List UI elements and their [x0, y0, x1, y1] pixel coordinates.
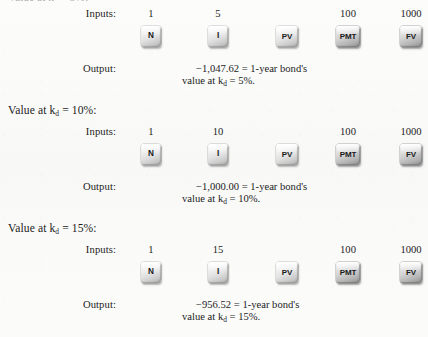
- input-value-i: 5: [215, 8, 220, 19]
- calculator-key-i-label: I: [217, 268, 219, 276]
- output-line-1: −1,047.62 = 1-year bond's: [196, 63, 307, 74]
- input-value-n: 1: [148, 8, 153, 19]
- calculator-key-pv[interactable]: PV: [276, 26, 298, 47]
- calculator-key-fv[interactable]: FV: [400, 26, 422, 47]
- output-line-2: value at kd = 15%.: [182, 311, 299, 324]
- block-heading-kd-15: Value at kd = 15%:: [8, 222, 97, 235]
- output-line-1: −1,000.00 = 1-year bond's: [196, 181, 307, 192]
- output-label: Output:: [38, 299, 116, 310]
- output-line-2-subscript: d: [223, 315, 227, 324]
- input-value-pmt: 100: [340, 8, 356, 19]
- calculator-key-fv-label: FV: [406, 33, 416, 41]
- output-text: −956.52 = 1-year bond's value at kd = 15…: [196, 299, 299, 325]
- input-value-fv: 1000: [400, 126, 421, 137]
- calculator-key-i-label: I: [217, 150, 219, 158]
- calculator-key-i[interactable]: I: [208, 144, 228, 165]
- input-value-pmt: 100: [340, 126, 356, 137]
- calculator-key-pmt[interactable]: PMT: [336, 262, 360, 283]
- input-values-row: 1 15 100 1000: [126, 244, 428, 258]
- block-heading-suffix: = 10%:: [59, 104, 97, 117]
- block-heading-prefix: Value at k: [8, 222, 55, 235]
- output-line-2-subscript: d: [223, 197, 227, 206]
- calculator-key-n-label: N: [148, 268, 154, 276]
- input-value-n: 1: [148, 244, 153, 255]
- output-line-2: value at kd = 10%.: [182, 193, 307, 206]
- output-label: Output:: [38, 63, 116, 74]
- calculator-key-fv-label: FV: [406, 269, 416, 277]
- calculator-key-fv[interactable]: FV: [400, 144, 422, 165]
- calculator-key-pv-label: PV: [282, 151, 292, 159]
- input-values-row: 1 5 100 1000: [126, 8, 428, 22]
- calculator-key-fv[interactable]: FV: [400, 262, 422, 283]
- input-value-i: 10: [213, 126, 224, 137]
- block-heading-suffix: = 15%:: [59, 222, 97, 235]
- calculator-keys-row: N I PV PMT FV: [126, 144, 428, 168]
- block-heading-kd-10: Value at kd = 10%:: [8, 104, 97, 117]
- calculator-key-n[interactable]: N: [141, 262, 161, 283]
- calculator-keys-row: N I PV PMT FV: [126, 262, 428, 286]
- calculator-keys-row: N I PV PMT FV: [126, 26, 428, 50]
- output-line-2-subscript: d: [223, 79, 227, 88]
- calculator-key-pv[interactable]: PV: [276, 262, 298, 283]
- output-line-2-prefix: value at k: [182, 75, 223, 86]
- input-value-fv: 1000: [400, 8, 421, 19]
- calculator-key-pv-label: PV: [282, 269, 292, 277]
- calculator-key-pmt-label: PMT: [340, 33, 357, 41]
- inputs-label: Inputs:: [38, 8, 116, 19]
- output-line-2-prefix: value at k: [182, 193, 223, 204]
- calculator-key-n[interactable]: N: [141, 144, 161, 165]
- input-value-fv: 1000: [400, 244, 421, 255]
- block-heading-subscript: d: [55, 227, 59, 236]
- calculator-key-fv-label: FV: [406, 151, 416, 159]
- calculator-key-pmt[interactable]: PMT: [336, 144, 360, 165]
- calculator-key-pmt-label: PMT: [340, 269, 357, 277]
- clipped-top-heading: Value at kᵈ = 5%:: [8, 0, 88, 3]
- calculator-key-pmt[interactable]: PMT: [336, 26, 360, 47]
- output-line-2-suffix: = 15%.: [227, 311, 260, 322]
- output-line-2: value at kd = 5%.: [182, 75, 307, 88]
- output-text: −1,000.00 = 1-year bond's value at kd = …: [196, 181, 307, 207]
- input-values-row: 1 10 100 1000: [126, 126, 428, 140]
- input-value-pmt: 100: [340, 244, 356, 255]
- calculator-key-n-label: N: [148, 32, 154, 40]
- inputs-label: Inputs:: [38, 126, 116, 137]
- calculator-key-pmt-label: PMT: [340, 151, 357, 159]
- calculator-key-pv[interactable]: PV: [276, 144, 298, 165]
- calculator-key-n-label: N: [148, 150, 154, 158]
- output-line-2-suffix: = 10%.: [227, 193, 260, 204]
- block-heading-prefix: Value at k: [8, 104, 55, 117]
- calculator-key-i[interactable]: I: [208, 262, 228, 283]
- output-line-2-prefix: value at k: [182, 311, 223, 322]
- calculator-key-i-label: I: [217, 32, 219, 40]
- output-line-1: −956.52 = 1-year bond's: [196, 299, 299, 310]
- input-value-i: 15: [213, 244, 224, 255]
- output-text: −1,047.62 = 1-year bond's value at kd = …: [196, 63, 307, 89]
- block-heading-subscript: d: [55, 109, 59, 118]
- calculator-key-n[interactable]: N: [141, 26, 161, 47]
- inputs-label: Inputs:: [38, 244, 116, 255]
- calculator-key-i[interactable]: I: [208, 26, 228, 47]
- document-page: Value at kᵈ = 5%: Inputs: 1 5 100 1000 N…: [0, 0, 428, 337]
- input-value-n: 1: [148, 126, 153, 137]
- calculator-key-pv-label: PV: [282, 33, 292, 41]
- output-label: Output:: [38, 181, 116, 192]
- output-line-2-suffix: = 5%.: [227, 75, 255, 86]
